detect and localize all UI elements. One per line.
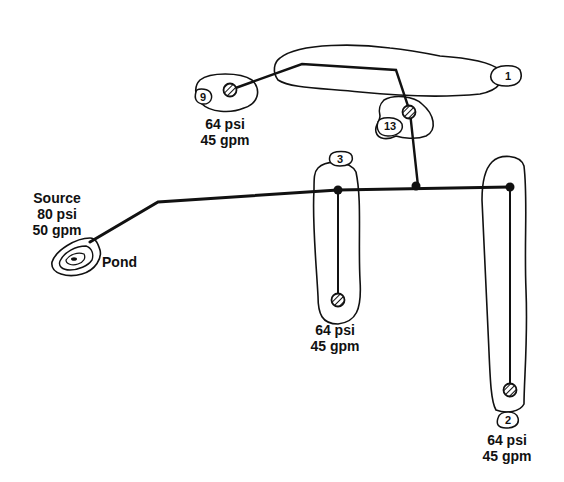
sprinkler-3-icon (332, 294, 345, 307)
junction-node (412, 182, 421, 191)
hole-3-flow: 45 gpm (300, 338, 370, 354)
sprinkler-2-icon (504, 384, 517, 397)
hole-2-label: 2 (502, 412, 514, 428)
hole-13-label: 13 (380, 118, 400, 134)
hole-3-pressure: 64 psi (300, 322, 370, 338)
hole-9-label: 9 (197, 89, 209, 105)
source-pressure: 80 psi (22, 206, 92, 222)
source-flow: 50 gpm (22, 222, 92, 238)
pipe-network-diagram (0, 0, 564, 482)
source-title: Source (22, 190, 92, 206)
sprinkler-9-icon (224, 84, 237, 97)
junction-node (506, 183, 515, 192)
pond-icon (52, 238, 101, 276)
hole-1-label: 1 (502, 68, 514, 84)
hole-9-flow: 45 gpm (190, 132, 260, 148)
pond-label: Pond (102, 254, 137, 270)
hole-9-pressure: 64 psi (190, 116, 260, 132)
hole-2-flow: 45 gpm (472, 448, 542, 464)
sprinkler-13-icon (403, 106, 416, 119)
junction-node (334, 186, 343, 195)
hole-2-pressure: 64 psi (472, 432, 542, 448)
hole-3-label: 3 (334, 151, 346, 167)
fairway-2-outline (482, 156, 527, 412)
